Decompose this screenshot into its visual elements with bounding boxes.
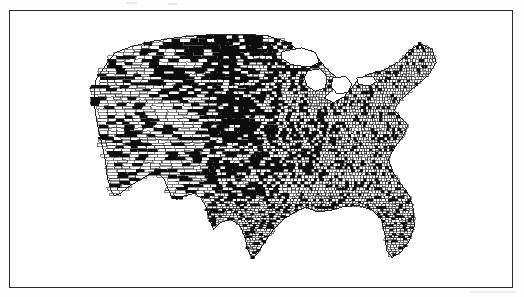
county-polygon (298, 68, 302, 71)
county-polygon (187, 91, 194, 94)
county-polygon (283, 172, 288, 175)
county-polygon (231, 62, 237, 65)
county-polygon (226, 175, 231, 178)
county-polygon (229, 103, 236, 106)
county-polygon (275, 202, 278, 204)
county-polygon (402, 199, 405, 201)
county-polygon (258, 222, 261, 224)
county-polygon (186, 68, 198, 71)
county-polygon (309, 175, 312, 178)
county-polygon (124, 128, 134, 131)
county-polygon (243, 181, 249, 184)
county-polygon (294, 91, 298, 93)
county-polygon (252, 65, 259, 68)
county-polygon (396, 233, 400, 235)
county-polygon (154, 68, 166, 70)
county-polygon (325, 112, 328, 115)
county-polygon (268, 166, 272, 169)
county-polygon (90, 97, 99, 100)
county-polygon (310, 166, 314, 169)
county-polygon (106, 74, 116, 77)
county-polygon (226, 184, 232, 187)
county-polygon (255, 118, 261, 121)
county-polygon (293, 199, 297, 202)
county-polygon (230, 160, 234, 163)
county-polygon (314, 106, 318, 108)
county-polygon (250, 115, 255, 118)
county-polygon (208, 109, 216, 112)
county-polygon (140, 115, 148, 118)
county-polygon (217, 125, 223, 128)
county-polygon (352, 106, 355, 109)
county-polygon (249, 243, 253, 245)
county-polygon (332, 125, 336, 129)
county-polygon (400, 80, 403, 83)
county-polygon (364, 146, 367, 148)
county-polygon (294, 178, 298, 181)
county-polygon (250, 227, 254, 229)
county-polygon (402, 77, 404, 80)
county-polygon (346, 163, 350, 165)
county-polygon (175, 52, 185, 55)
county-polygon (369, 140, 372, 142)
county-polygon (233, 199, 238, 202)
county-polygon (332, 196, 335, 199)
county-polygon (308, 109, 312, 112)
county-polygon (299, 172, 303, 174)
county-polygon (208, 128, 217, 131)
county-polygon (318, 143, 322, 146)
county-polygon (345, 178, 348, 181)
county-polygon (261, 222, 265, 224)
county-polygon (394, 199, 397, 201)
county-polygon (389, 97, 391, 100)
county-polygon (209, 91, 215, 94)
county-polygon (161, 172, 171, 175)
county-polygon (165, 68, 175, 71)
county-polygon (371, 112, 374, 115)
county-polygon (322, 193, 326, 195)
county-polygon (349, 125, 353, 128)
county-polygon (392, 134, 395, 137)
county-polygon (117, 169, 126, 172)
county-polygon (241, 112, 247, 115)
county-polygon (406, 201, 410, 203)
county-polygon (203, 62, 212, 65)
county-polygon (298, 131, 302, 134)
county-polygon (403, 74, 406, 77)
county-polygon (378, 178, 381, 181)
county-polygon (362, 149, 364, 152)
county-polygon (247, 199, 251, 201)
county-polygon (147, 134, 156, 136)
county-polygon (316, 137, 319, 140)
county-polygon (345, 125, 348, 128)
county-polygon (329, 172, 332, 175)
county-polygon (299, 122, 303, 124)
county-polygon (393, 227, 397, 229)
county-polygon (278, 193, 281, 196)
county-polygon (276, 68, 280, 71)
county-polygon (170, 88, 179, 91)
county-polygon (217, 206, 221, 208)
county-polygon (323, 154, 327, 156)
county-polygon (300, 118, 304, 121)
county-polygon (261, 154, 266, 156)
county-polygon (251, 254, 255, 256)
county-polygon (340, 193, 344, 196)
county-polygon (283, 184, 288, 188)
county-polygon (290, 80, 294, 83)
county-polygon (241, 216, 245, 218)
county-polygon (242, 187, 247, 190)
county-polygon (303, 116, 307, 119)
county-polygon (221, 39, 228, 43)
county-polygon (128, 175, 136, 178)
county-polygon (201, 134, 210, 137)
county-polygon (366, 175, 369, 178)
county-polygon (288, 77, 292, 80)
county-polygon (284, 190, 288, 193)
county-polygon (290, 175, 295, 178)
county-polygon (389, 233, 392, 235)
county-polygon (226, 59, 231, 62)
county-polygon (264, 175, 268, 178)
county-polygon (337, 188, 340, 190)
county-polygon (352, 181, 354, 184)
